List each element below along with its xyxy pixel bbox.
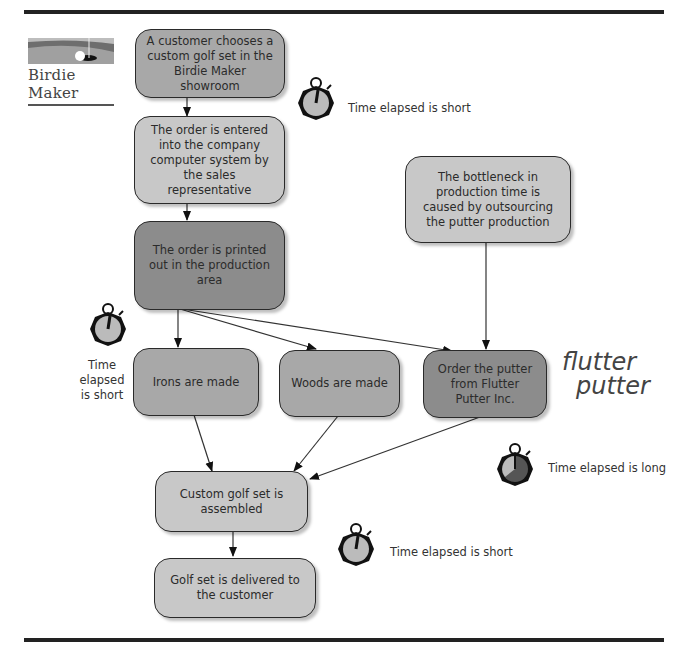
- stopwatch-long-icon: [495, 440, 537, 492]
- node-bottleneck: The bottleneck in production time is cau…: [405, 156, 571, 243]
- stopwatch-short-icon: [88, 300, 130, 352]
- stopwatch-short-icon: [336, 520, 378, 572]
- node-order-entered: The order is entered into the company co…: [134, 116, 285, 204]
- node-text: The order is entered into the company co…: [143, 123, 276, 198]
- node-set-delivered: Golf set is delivered to the customer: [154, 558, 316, 618]
- label-line: elapsed: [74, 373, 130, 388]
- node-text: Irons are made: [153, 375, 240, 390]
- node-customer-chooses: A customer chooses a custom golf set in …: [135, 29, 285, 98]
- node-text: Woods are made: [291, 376, 388, 391]
- node-order-putter: Order the putter from Flutter Putter Inc…: [423, 350, 547, 418]
- brand-line-2: putter: [562, 374, 650, 398]
- node-text: Order the putter from Flutter Putter Inc…: [432, 362, 538, 407]
- brand-line-1: flutter: [562, 350, 650, 374]
- node-irons-made: Irons are made: [133, 348, 259, 416]
- label-line: Time: [74, 358, 130, 373]
- time-short-label-3: Time elapsed is short: [390, 545, 513, 560]
- stopwatch-short-icon: [296, 74, 338, 126]
- node-set-assembled: Custom golf set is assembled: [155, 471, 308, 532]
- node-order-printed: The order is printed out in the producti…: [134, 221, 285, 310]
- node-text: The order is printed out in the producti…: [143, 243, 276, 288]
- time-short-label-1: Time elapsed is short: [348, 101, 471, 116]
- time-short-label-2: Time elapsed is short: [74, 358, 130, 403]
- node-text: Custom golf set is assembled: [164, 487, 299, 517]
- flutter-putter-logo: flutter putter: [562, 350, 650, 398]
- node-text: The bottleneck in production time is cau…: [414, 170, 562, 230]
- label-line: is short: [74, 388, 130, 403]
- time-long-label: Time elapsed is long: [548, 461, 666, 476]
- node-woods-made: Woods are made: [279, 350, 400, 417]
- node-text: A customer chooses a custom golf set in …: [144, 34, 276, 94]
- node-text: Golf set is delivered to the customer: [163, 573, 307, 603]
